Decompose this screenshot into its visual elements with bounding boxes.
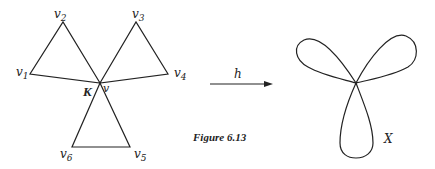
figure-caption: Figure 6.13 <box>192 131 247 143</box>
map-arrow <box>210 81 273 87</box>
vertex-label-v3: v3 <box>132 7 145 23</box>
vertex-label-v4: v4 <box>174 66 187 82</box>
arrowhead-icon <box>264 81 273 87</box>
vertex-label-v1: v1 <box>16 65 29 81</box>
complex-label-k: K <box>82 84 93 99</box>
complex-k <box>30 22 168 147</box>
map-label-h: h <box>234 67 242 81</box>
space-label-x: X <box>383 132 393 146</box>
vertex-label-v: v <box>103 82 110 95</box>
vertex-label-v6: v6 <box>60 147 73 163</box>
triangle-v-v3-v4 <box>100 22 168 83</box>
loop-bottom <box>340 83 373 158</box>
triangle-v-v5-v6 <box>72 83 130 147</box>
triangle-v-v1-v2 <box>30 22 100 83</box>
vertex-label-v5: v5 <box>134 147 147 163</box>
vertex-label-v2: v2 <box>54 7 67 23</box>
loop-left <box>296 39 356 83</box>
loop-right <box>356 35 416 83</box>
space-x-clover <box>296 35 416 158</box>
figure-canvas: v2 v3 v1 v4 v6 v5 v K h Figure 6.13 X <box>0 0 435 169</box>
